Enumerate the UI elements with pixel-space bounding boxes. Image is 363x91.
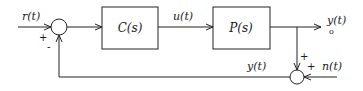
measured-signal-label: y(t) [246, 60, 266, 73]
diagram-canvas: r(t) + - C(s) u(t) P(s) y(t) o + + [0, 0, 363, 91]
sum2-noise-plus-sign: + [307, 61, 315, 72]
output-signal-subscript: o [329, 27, 334, 36]
reference-signal-label: r(t) [22, 10, 40, 23]
control-signal-label: u(t) [173, 10, 193, 23]
sum1-minus-sign: - [47, 41, 51, 52]
summing-junction-1 [51, 19, 67, 35]
controller-label: C(s) [118, 21, 143, 35]
output-signal-label: y(t) [326, 14, 346, 27]
plant-label: P(s) [228, 21, 253, 35]
output-signal-arg: (t) [333, 14, 346, 27]
control-loop-diagram: r(t) + - C(s) u(t) P(s) y(t) o + + [0, 0, 363, 91]
noise-signal-label: n(t) [322, 60, 342, 73]
summing-junction-2 [290, 70, 304, 84]
